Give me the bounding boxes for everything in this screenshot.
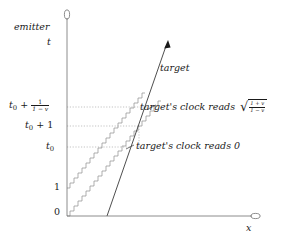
tick-label-t0-plus-fraction-operator: + xyxy=(20,99,28,110)
tick-label-t0-plus-1-subscript: 0 xyxy=(29,124,33,132)
tick-label-t0-subscript: 0 xyxy=(50,145,54,153)
tick-label-1: 1 xyxy=(54,181,60,192)
tick-label-t0: t0 xyxy=(46,140,54,153)
square-root-expression: √ 1 + v 1 − v xyxy=(239,100,267,115)
fraction-one-plus-v-over-one-minus-v: 1 + v 1 − v xyxy=(249,101,265,113)
y-axis-label: t xyxy=(47,36,51,47)
tick-label-t0-plus-1-rest: + 1 xyxy=(36,119,53,130)
tick-label-t0-plus-1: t0+ 1 xyxy=(25,119,53,132)
radicand: 1 + v 1 − v xyxy=(248,99,267,113)
fraction-denominator: 1 − v xyxy=(31,106,49,112)
light-signal-staircase-lower xyxy=(67,101,161,216)
clock-reads-zero-annotation: target's clock reads 0 xyxy=(136,140,240,151)
y-axis-arrowhead xyxy=(64,10,69,19)
target-worldline-arrowhead xyxy=(164,40,170,49)
fraction-one-over-one-minus-v: 1 1 − v xyxy=(31,99,49,113)
tick-label-t0-plus-fraction: t0+ 1 1 − v xyxy=(9,99,49,113)
tick-label-0: 0 xyxy=(54,206,60,217)
x-axis-arrowhead xyxy=(251,213,260,218)
target-worldline xyxy=(107,46,166,216)
radical-sign: √ xyxy=(240,99,248,114)
target-worldline-label: target xyxy=(160,62,190,73)
x-axis-label: x xyxy=(246,222,251,233)
clock-reads-gamma-text: target's clock reads xyxy=(140,101,235,112)
gamma-fraction-denominator: 1 − v xyxy=(249,108,265,113)
tick-label-t0-plus-fraction-subscript: 0 xyxy=(13,104,17,112)
clock-reads-gamma-annotation: target's clock reads √ 1 + v 1 − v xyxy=(140,100,267,115)
emitter-caption: emitter xyxy=(14,21,49,32)
spacetime-diagram: emitter t x 0 1 t0 t0+ 1 t0+ 1 1 − v tar… xyxy=(0,0,290,243)
